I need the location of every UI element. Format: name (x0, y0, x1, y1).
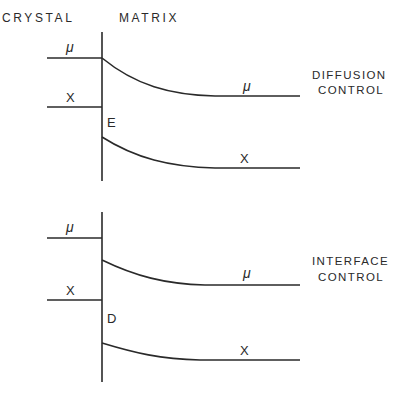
matrix-mu-curve (102, 260, 300, 285)
crystal-header: CRYSTAL (2, 11, 74, 25)
diffusion-title-line1: DIFFUSION (312, 69, 387, 81)
interface-title-line2: CONTROL (318, 271, 384, 283)
crystal-mu-label: μ (65, 39, 74, 55)
crystal-x-label: X (66, 283, 75, 298)
matrix-mu-curve (102, 58, 300, 96)
crystal-x-label: X (66, 90, 75, 105)
matrix-mu-label: μ (242, 265, 251, 281)
interface-title-line1: INTERFACE (312, 255, 389, 267)
interface-marker-d: D (107, 311, 116, 326)
crystal-mu-label: μ (65, 219, 74, 235)
matrix-mu-label: μ (242, 78, 251, 94)
interface-marker-e: E (107, 115, 116, 130)
diffusion-control-panel: μ X E μ X DIFFUSION CONTROL (47, 32, 387, 181)
matrix-x-curve (102, 137, 300, 168)
diffusion-interface-diagram: CRYSTAL MATRIX μ X E μ X DIFFUSION CONTR… (0, 0, 407, 398)
matrix-header: MATRIX (119, 11, 179, 25)
diffusion-title-line2: CONTROL (318, 84, 384, 96)
matrix-x-label: X (240, 151, 249, 166)
matrix-x-curve (102, 343, 300, 360)
matrix-x-label: X (240, 343, 249, 358)
interface-control-panel: μ X D μ X INTERFACE CONTROL (47, 212, 389, 382)
